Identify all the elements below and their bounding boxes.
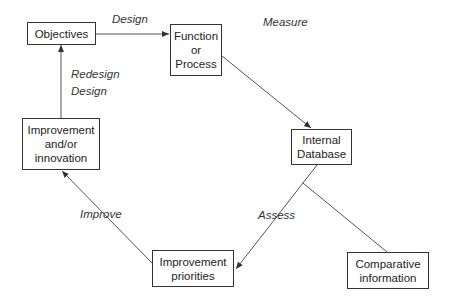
label-design: Design bbox=[112, 13, 148, 26]
node-internal-database: Internal Database bbox=[291, 129, 352, 165]
diagram-canvas: Objectives Function or Process Internal … bbox=[0, 0, 455, 306]
node-database-line1: Internal bbox=[302, 133, 340, 147]
node-function-or-process: Function or Process bbox=[170, 24, 222, 76]
node-priorities-line2: priorities bbox=[171, 269, 214, 283]
measure-arrow bbox=[222, 56, 311, 128]
label-redesign-design: Design bbox=[71, 85, 107, 98]
label-measure: Measure bbox=[263, 16, 308, 29]
node-comparative-line2: information bbox=[360, 271, 417, 285]
node-improvement-priorities: Improvement priorities bbox=[152, 250, 234, 287]
node-innovation-line3: innovation bbox=[35, 151, 87, 165]
node-innovation-line1: Improvement bbox=[27, 123, 94, 137]
node-objectives: Objectives bbox=[27, 22, 96, 45]
node-function-line3: Process bbox=[175, 57, 217, 71]
node-function-line1: Function bbox=[174, 29, 218, 43]
node-comparative-line1: Comparative bbox=[355, 257, 420, 271]
label-improve: Improve bbox=[80, 208, 122, 221]
node-objectives-label: Objectives bbox=[35, 27, 89, 41]
label-assess: Assess bbox=[258, 209, 295, 222]
node-improvement-innovation: Improvement and/or innovation bbox=[22, 118, 100, 170]
node-comparative-information: Comparative information bbox=[347, 252, 429, 289]
node-innovation-line2: and/or bbox=[45, 137, 78, 151]
node-priorities-line1: Improvement bbox=[159, 255, 226, 269]
node-function-line2: or bbox=[191, 43, 201, 57]
node-database-line2: Database bbox=[297, 147, 346, 161]
comparative-link bbox=[303, 183, 387, 252]
label-redesign: Redesign bbox=[71, 68, 120, 81]
